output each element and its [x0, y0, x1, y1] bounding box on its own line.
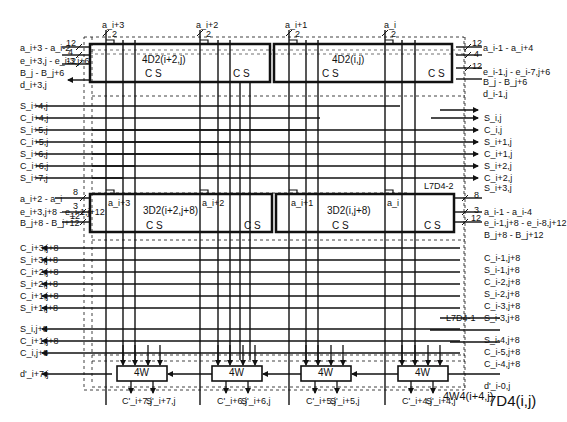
- cs-label: C S: [332, 220, 349, 231]
- input-label: a_i-1 - a_i+4: [483, 43, 533, 53]
- input-label: B_j - B_j+6: [20, 68, 64, 78]
- diagram-title: 7D4(i,j): [488, 392, 536, 409]
- signal-label: S_i+2,j: [484, 161, 512, 171]
- signal-label: C_i+1,j+8: [20, 336, 59, 346]
- signal-label: C_i+2,j+8: [20, 267, 59, 277]
- 4w4-group-label: 4W4(i+4,j): [443, 390, 493, 402]
- block-label: 4D2(i,j): [332, 54, 364, 65]
- signal-label: C_i,j+8: [20, 348, 48, 358]
- bus-width: 3: [73, 201, 78, 211]
- signal-label: C_i+4,j: [20, 113, 48, 123]
- input-label: d_i+3,j: [20, 80, 47, 90]
- input-label: d_i-1,j: [483, 89, 508, 99]
- input-label: e_i+3,j+8 - e_i-1,j+12: [20, 207, 105, 217]
- signal-label: S_i+6,j: [20, 149, 48, 159]
- bus-width: 8: [474, 190, 479, 200]
- signal-label: S_i+4,j: [20, 101, 48, 111]
- bus-width: 4: [474, 49, 479, 59]
- outer-boundary: [84, 37, 464, 390]
- signal-label: S_i-4,j+8: [484, 335, 520, 345]
- signal-label: C_i+3,j+8: [20, 243, 59, 253]
- signal-label: C_i-2,j+8: [484, 277, 520, 287]
- bus-width: 2: [112, 29, 117, 39]
- bus-width: 12: [471, 213, 481, 223]
- cs-label: C S: [145, 68, 162, 79]
- signal-label: S_i+2,j+8: [20, 279, 58, 289]
- signal-label: S_i+3,j: [484, 183, 512, 193]
- cs-label: C S: [244, 220, 261, 231]
- cs-label: C S: [146, 220, 163, 231]
- cs-label: C S: [233, 68, 250, 79]
- bus-width: 12: [66, 56, 76, 66]
- signal-label: C_i+5,j: [20, 137, 48, 147]
- signal-label: S_i,j: [484, 113, 502, 123]
- signal-label: S_i+3,j+8: [20, 255, 58, 265]
- input-label: e_i+3,j - e_i-3,j+6: [20, 56, 90, 66]
- mid-a-label: a_i: [387, 198, 399, 208]
- bus-width: 2: [391, 29, 396, 39]
- signal-label: S_i+5,j: [20, 125, 48, 135]
- 4w-label: 4W: [134, 367, 149, 378]
- signal-label: S_i+7,j: [20, 173, 48, 183]
- cs-label: C S: [322, 68, 339, 79]
- signal-label: C_i+2,j: [484, 173, 512, 183]
- bus-width: 12: [70, 211, 80, 221]
- signal-label: C_i-4,j+8: [484, 359, 520, 369]
- 4w-label: 4W: [415, 367, 430, 378]
- input-label: e_i-1,j+8 - e_i-8,j+12: [484, 218, 567, 228]
- layer-label: L7D4-1: [446, 313, 476, 323]
- bus-width: 2: [295, 29, 300, 39]
- input-label: a_i-1 - a_i-4: [484, 207, 532, 217]
- block-label: 4D2(i+2,j): [142, 54, 186, 65]
- bus-width: 2: [206, 29, 211, 39]
- bus-width: 8: [73, 187, 78, 197]
- signal-label: C_i-1,j+8: [484, 253, 520, 263]
- d-out-label: d'_i+7,j: [20, 369, 49, 379]
- mid-a-label: a_i+1: [291, 198, 313, 208]
- bus-width: 12: [472, 38, 482, 48]
- output-s: S'_i+5,j: [330, 396, 360, 406]
- signal-label: C_i,j: [484, 125, 502, 135]
- signal-label: S_i+1,j+8: [20, 303, 58, 313]
- input-label: a_i+2 - a_i: [20, 194, 62, 204]
- 4w-label: 4W: [229, 367, 244, 378]
- output-s: S'_i+7,j: [146, 396, 176, 406]
- signal-label: S_i+1,j: [484, 137, 512, 147]
- signal-label: C_i+6,j: [20, 161, 48, 171]
- layer-label: L7D4-2: [424, 181, 454, 191]
- signal-label: S_i,j+8: [20, 324, 48, 334]
- output-s: S'_i+6,j: [241, 396, 271, 406]
- block-label: 3D2(i,j+8): [327, 205, 371, 216]
- signal-label: C_i+1,j: [484, 149, 512, 159]
- input-label: B_j - B_j+6: [483, 77, 527, 87]
- input-label: e_i-1,j - e_i-7,j+6: [483, 67, 550, 77]
- signal-label: C_i-5,j+8: [484, 347, 520, 357]
- signal-label: S_i-1,j+8: [484, 265, 520, 275]
- signal-label: S_i-3,j+8: [484, 313, 520, 323]
- bus-width: 12: [472, 61, 482, 71]
- input-label: a_i+3 - a_i-2: [20, 43, 70, 53]
- block-label: 3D2(i+2,j+8): [143, 205, 198, 216]
- 4w-label: 4W: [318, 367, 333, 378]
- signal-label: C_i-3,j+8: [484, 301, 520, 311]
- input-label: B_j+8 - B_j+12: [484, 230, 544, 240]
- signal-label: C_i+1,j+8: [20, 291, 59, 301]
- signal-label: S_i-2,j+8: [484, 289, 520, 299]
- mid-a-label: a_i+2: [202, 198, 224, 208]
- mid-a-label: a_i+3: [108, 198, 130, 208]
- cs-label: C S: [428, 68, 445, 79]
- cs-label: C S: [424, 220, 441, 231]
